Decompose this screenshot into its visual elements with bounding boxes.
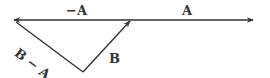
vector-diagram: −A A B B − A: [0, 0, 270, 78]
vector-b-arrow: [83, 21, 130, 72]
label-a: A: [182, 4, 192, 17]
label-b: B: [109, 52, 120, 65]
label-neg-a: −A: [66, 4, 87, 17]
